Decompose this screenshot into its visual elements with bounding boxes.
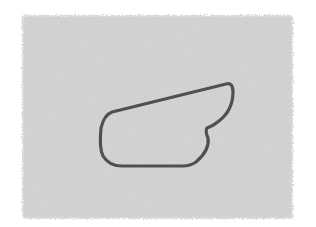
textured-panel <box>22 15 293 219</box>
scene-canvas <box>0 0 316 227</box>
